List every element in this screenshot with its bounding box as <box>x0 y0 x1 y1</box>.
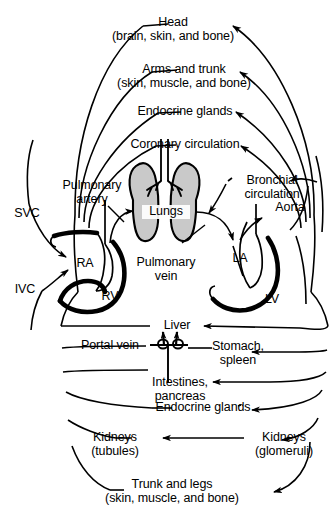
bronchial-to-lungs-arrow <box>209 184 226 213</box>
label-pulmonary-vein-line2: vein <box>137 269 196 283</box>
label-lv-text: LV <box>265 293 279 307</box>
label-head-line1: Head <box>112 15 234 29</box>
label-endocrine-lower-line1: Endocrine glands <box>156 401 251 415</box>
label-pulmonary-vein-line1: Pulmonary <box>137 255 196 269</box>
portal-arrow-right <box>176 332 177 345</box>
label-trunk-legs-line2: (skin, muscle, and bone) <box>105 491 239 505</box>
label-kidneys-glomeruli-line2: (glomeruli) <box>255 444 313 458</box>
label-endocrine-upper: Endocrine glands <box>138 105 233 119</box>
aorta-trunk-far-right <box>316 156 323 232</box>
ivc-to-ra-arrow <box>42 270 68 291</box>
loop-intestines-left <box>63 370 148 372</box>
label-head: Head (brain, skin, and bone) <box>112 15 234 43</box>
circulation-diagram: Head (brain, skin, and bone) Arms and tr… <box>0 0 331 512</box>
pulmonary-artery-leader <box>108 206 124 222</box>
label-intestines-line1: Intestines, <box>152 375 208 389</box>
label-trunk-legs-line1: Trunk and legs <box>105 477 239 491</box>
label-coronary-circulation: Coronary circulation <box>130 138 239 152</box>
bronchial-label-connector <box>228 178 232 181</box>
loop-liver-right <box>204 326 328 329</box>
label-lungs: Lungs <box>149 205 183 219</box>
label-left-atrium: LA <box>232 252 247 266</box>
label-ivc-text: IVC <box>15 283 36 297</box>
label-endocrine-upper-line1: Endocrine glands <box>138 105 233 119</box>
label-intestines-pancreas: Intestines, pancreas <box>152 375 208 403</box>
label-arms-trunk: Arms and trunk (skin, muscle, and bone) <box>117 62 251 90</box>
label-aorta: Aorta <box>275 201 304 215</box>
lungs-to-la-arrow <box>196 212 233 240</box>
label-kidneys-glomeruli-line1: Kidneys <box>255 430 313 444</box>
lv-inner-wall <box>250 234 262 288</box>
label-trunk-legs: Trunk and legs (skin, muscle, and bone) <box>105 477 239 505</box>
label-ivc: IVC <box>15 283 36 297</box>
label-kidneys-tubules: Kidneys (tubules) <box>91 430 139 458</box>
lung-left-lobe <box>130 163 159 241</box>
label-portal-vein: Portal vein <box>81 339 139 353</box>
portal-sinusoid-right <box>173 340 183 349</box>
label-right-ventricle: RV <box>102 290 119 304</box>
label-svc: SVC <box>14 207 39 221</box>
label-liver-text: Liver <box>164 319 191 333</box>
lung-right-lobe <box>171 163 200 241</box>
label-svc-text: SVC <box>14 207 39 221</box>
label-kidneys-glomeruli: Kidneys (glomeruli) <box>255 430 313 458</box>
label-coronary-line1: Coronary circulation <box>130 138 239 152</box>
svc-vessel <box>54 232 97 236</box>
label-bronchial-line1: Bronchial <box>244 173 299 187</box>
label-aorta-text: Aorta <box>275 201 304 215</box>
label-liver: Liver <box>164 319 191 333</box>
loop-endocrine2-left <box>66 392 152 408</box>
label-kidneys-tubules-line1: Kidneys <box>91 430 139 444</box>
label-bronchial-circulation: Bronchial circulation <box>244 173 299 201</box>
label-right-atrium: RA <box>76 257 93 271</box>
label-la-text: LA <box>232 252 247 266</box>
label-arms-trunk-line1: Arms and trunk <box>117 62 251 76</box>
label-pulmonary-artery-line2: artery <box>63 192 122 206</box>
label-lungs-text: Lungs <box>149 205 183 219</box>
rv-to-lungs-arrow <box>110 211 133 243</box>
label-arms-trunk-line2: (skin, muscle, and bone) <box>117 76 251 90</box>
label-portal-vein-text: Portal vein <box>81 339 139 353</box>
svc-trunk-upper <box>27 140 33 204</box>
label-head-line2: (brain, skin, and bone) <box>112 29 234 43</box>
label-rv-text: RV <box>102 290 119 304</box>
ivc-trunk-lower <box>31 291 42 330</box>
label-endocrine-lower: Endocrine glands <box>156 401 251 415</box>
loop-endocrine2-right <box>252 390 322 410</box>
label-stomach-line1: Stomach, <box>212 339 264 353</box>
label-stomach-line2: spleen <box>212 353 264 367</box>
loop-intestines-right <box>213 372 326 382</box>
upper-body-outline-right <box>311 215 315 292</box>
label-pulmonary-artery: Pulmonary artery <box>63 178 122 206</box>
label-stomach-spleen: Stomach, spleen <box>212 339 264 367</box>
lower-body-outline-right <box>311 292 328 326</box>
label-kidneys-tubules-line2: (tubules) <box>91 444 139 458</box>
aorta-to-systemic-down <box>296 236 306 304</box>
portal-arrow-left <box>163 332 164 345</box>
label-pulmonary-artery-line1: Pulmonary <box>63 178 122 192</box>
label-left-ventricle: LV <box>265 293 279 307</box>
label-ra-text: RA <box>76 257 93 271</box>
label-bronchial-line2: circulation <box>244 187 299 201</box>
label-pulmonary-vein: Pulmonary vein <box>137 255 196 283</box>
